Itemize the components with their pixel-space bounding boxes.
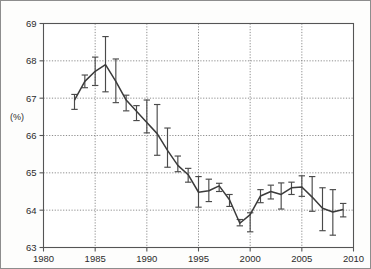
x-tick-label: 2010 — [343, 253, 364, 264]
x-tick-label: 2000 — [240, 253, 261, 264]
x-tick-label: 1990 — [136, 253, 157, 264]
y-axis-ticks — [40, 24, 44, 248]
y-axis-tick-labels: 63646566676869 — [26, 18, 37, 253]
x-axis-tick-labels: 1980198519901995200020052010 — [33, 253, 364, 264]
y-axis-unit-label: (%) — [10, 112, 24, 122]
chart-figure: 63646566676869 1980198519901995200020052… — [0, 0, 371, 269]
x-tick-label: 1985 — [85, 253, 106, 264]
y-tick-label: 67 — [26, 93, 37, 104]
x-axis-ticks — [44, 248, 354, 252]
y-tick-label: 66 — [26, 130, 37, 141]
line-chart-with-error-bars: 63646566676869 1980198519901995200020052… — [1, 1, 371, 269]
x-tick-label: 2005 — [291, 253, 312, 264]
x-tick-label: 1995 — [188, 253, 209, 264]
y-tick-label: 69 — [26, 18, 37, 29]
y-tick-label: 68 — [26, 55, 37, 66]
y-tick-label: 65 — [26, 167, 37, 178]
y-tick-label: 63 — [26, 242, 37, 253]
x-tick-label: 1980 — [33, 253, 54, 264]
y-tick-label: 64 — [26, 205, 37, 216]
